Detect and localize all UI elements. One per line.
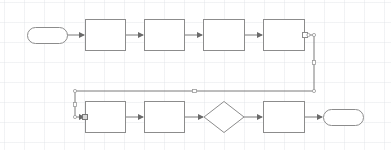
terminator-shape[interactable] — [28, 28, 68, 44]
connector-segment-handle[interactable] — [193, 90, 197, 93]
connector-waypoint-handle[interactable] — [73, 89, 76, 92]
connector-segment-handle[interactable] — [313, 61, 316, 65]
connector-waypoint-handle[interactable] — [307, 33, 310, 36]
connector-target-handle[interactable] — [83, 115, 88, 120]
node-p1[interactable] — [86, 20, 126, 51]
process-shape[interactable] — [264, 20, 305, 51]
connector-segment-handle[interactable] — [74, 103, 77, 107]
process-shape[interactable] — [145, 102, 185, 133]
flowchart — [0, 0, 391, 150]
node-end[interactable] — [324, 110, 364, 126]
node-p2[interactable] — [145, 20, 185, 51]
connector-waypoint-handle[interactable] — [312, 89, 315, 92]
process-shape[interactable] — [86, 102, 126, 133]
process-shape[interactable] — [204, 20, 245, 51]
terminator-shape[interactable] — [324, 110, 364, 126]
process-shape[interactable] — [145, 20, 185, 51]
node-p6[interactable] — [145, 102, 185, 133]
node-d1[interactable] — [204, 102, 244, 133]
node-start[interactable] — [28, 28, 68, 44]
node-p5[interactable] — [86, 102, 126, 133]
node-p7[interactable] — [264, 102, 305, 133]
process-shape[interactable] — [86, 20, 126, 51]
decision-shape[interactable] — [204, 102, 244, 133]
connector-waypoint-handle[interactable] — [73, 115, 76, 118]
connector-waypoint-handle[interactable] — [312, 33, 315, 36]
process-shape[interactable] — [264, 102, 305, 133]
node-p4[interactable] — [264, 20, 305, 51]
node-p3[interactable] — [204, 20, 245, 51]
